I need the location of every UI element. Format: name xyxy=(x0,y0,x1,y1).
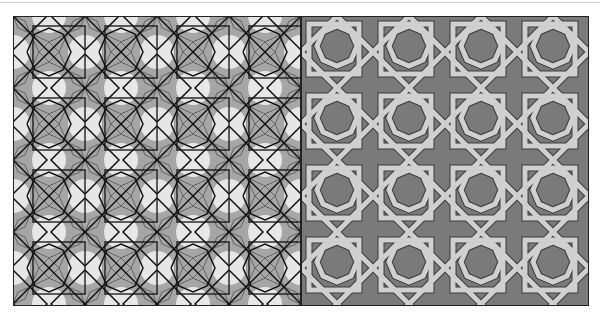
girih-construction-panel xyxy=(13,16,301,306)
interlaced-strapwork-panel xyxy=(301,16,589,306)
top-rule xyxy=(0,2,600,3)
